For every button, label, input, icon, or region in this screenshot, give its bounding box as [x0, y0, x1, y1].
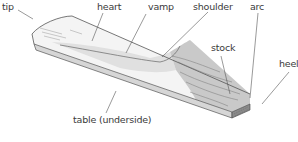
label-shoulder: shoulder [193, 2, 233, 12]
reed-stock-surface [170, 40, 250, 112]
label-table-underside: table (underside) [73, 115, 151, 125]
label-stock: stock [211, 43, 235, 53]
leader-table [106, 91, 116, 113]
label-arc: arc [250, 2, 264, 12]
label-tip: tip [2, 2, 14, 12]
leader-heel [262, 72, 289, 104]
label-vamp: vamp [148, 2, 174, 12]
label-heel: heel [279, 59, 298, 69]
reed-body [32, 16, 250, 118]
leader-tip [18, 10, 33, 19]
leader-arc [250, 13, 258, 98]
label-heart: heart [97, 2, 121, 12]
